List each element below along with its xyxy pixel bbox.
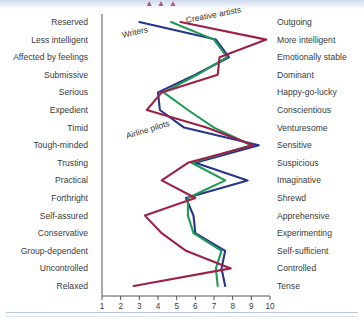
left-trait-label: Group-dependent: [21, 246, 88, 256]
series-lines-group: [134, 22, 267, 286]
x-tick-label: 8: [226, 302, 240, 311]
right-trait-label: Venturesome: [277, 123, 328, 133]
right-trait-label: Conscientious: [277, 105, 331, 115]
x-tick-label: 1: [95, 302, 109, 311]
bottom-divider-secondary: [6, 316, 358, 317]
left-trait-label: Uncontrolled: [40, 263, 88, 273]
left-trait-label: Serious: [59, 87, 88, 97]
right-trait-label: Happy-go-lucky: [277, 87, 337, 97]
left-trait-label: Practical: [55, 175, 88, 185]
right-trait-label: Sensitive: [277, 140, 312, 150]
right-trait-label: Controlled: [277, 263, 316, 273]
right-trait-label: Suspicious: [277, 158, 319, 168]
right-trait-label: Experimenting: [277, 228, 332, 238]
left-trait-label: Self-assured: [40, 211, 88, 221]
left-trait-label: Timid: [67, 123, 88, 133]
left-trait-label: Trusting: [57, 158, 88, 168]
series-line[interactable]: [134, 22, 267, 286]
left-trait-label: Submissive: [44, 70, 88, 80]
series-line[interactable]: [164, 22, 252, 286]
right-trait-label: More intelligent: [277, 35, 335, 45]
x-tick-label: 6: [188, 302, 202, 311]
x-tick-label: 7: [207, 302, 221, 311]
x-tick-label: 5: [170, 302, 184, 311]
left-trait-label: Conservative: [38, 228, 88, 238]
bottom-divider: [6, 312, 358, 313]
x-tick-label: 10: [263, 302, 277, 311]
left-trait-label: Reserved: [51, 17, 88, 27]
left-trait-label: Affected by feelings: [13, 52, 88, 62]
x-tick-label: 9: [244, 302, 258, 311]
right-trait-label: Outgoing: [277, 17, 312, 27]
chart-page: ▲▲▲ ReservedLess intelligentAffected by …: [0, 0, 364, 325]
series-line[interactable]: [139, 22, 258, 286]
axis-group: [102, 14, 270, 300]
x-tick-label: 2: [114, 302, 128, 311]
left-trait-label: Relaxed: [56, 281, 88, 291]
right-trait-label: Emotionally stable: [277, 52, 347, 62]
x-tick-label: 3: [132, 302, 146, 311]
right-trait-label: Tense: [277, 281, 300, 291]
axis-tick-marks: [102, 296, 270, 300]
right-trait-label: Self-sufficient: [277, 246, 328, 256]
left-trait-label: Tough-minded: [34, 140, 88, 150]
right-trait-label: Apprehensive: [277, 211, 330, 221]
right-trait-label: Shrewd: [277, 193, 306, 203]
right-trait-label: Imaginative: [277, 175, 321, 185]
left-trait-label: Expedient: [50, 105, 88, 115]
x-tick-label: 4: [151, 302, 165, 311]
left-trait-label: Forthright: [51, 193, 88, 203]
left-trait-label: Less intelligent: [31, 35, 88, 45]
right-trait-label: Dominant: [277, 70, 314, 80]
